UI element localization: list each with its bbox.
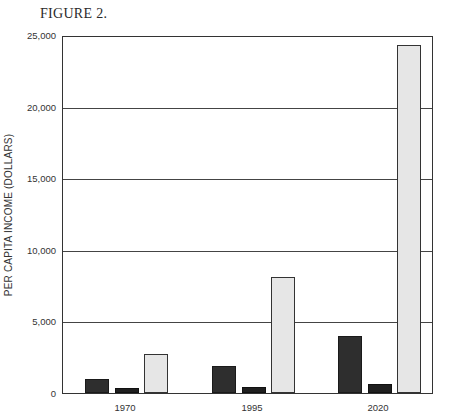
gridline [63,108,432,109]
y-axis-label: PER CAPITA INCOME (DOLLARS) [3,134,14,296]
y-tick-label: 0 [0,388,56,399]
x-tick-label: 2020 [348,402,408,413]
bar-1970-series-1 [85,379,109,393]
y-tick-label: 15,000 [0,173,56,184]
bar-2020-series-2 [368,384,392,393]
x-tick-label: 1995 [222,402,282,413]
gridline [63,251,432,252]
y-tick-label: 5,000 [0,316,56,327]
bar-1970-series-2 [115,388,139,393]
gridline [63,179,432,180]
plot-area [62,36,433,394]
y-tick-label: 10,000 [0,245,56,256]
bar-1970-series-3 [144,354,168,393]
gridline [63,322,432,323]
x-tick-label: 1970 [95,402,155,413]
bar-2020-series-1 [338,336,362,393]
bar-1995-series-1 [212,366,236,393]
bar-1995-series-2 [242,387,266,393]
y-tick-label: 20,000 [0,102,56,113]
bar-2020-series-3 [397,45,421,393]
bar-1995-series-3 [271,277,295,393]
y-tick-label: 25,000 [0,30,56,41]
figure-title: FIGURE 2. [40,6,107,22]
